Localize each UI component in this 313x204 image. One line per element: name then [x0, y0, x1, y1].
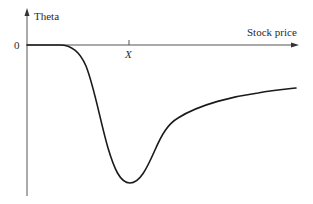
- x-axis-arrow-icon: [291, 43, 299, 48]
- theta-chart: Theta Stock price 0 X: [0, 0, 313, 204]
- zero-label: 0: [14, 39, 20, 51]
- strike-label: X: [124, 48, 133, 60]
- y-axis-arrow-icon: [25, 8, 30, 16]
- theta-curve: [27, 45, 296, 183]
- y-axis-label: Theta: [34, 10, 59, 22]
- x-axis-label: Stock price: [247, 26, 297, 38]
